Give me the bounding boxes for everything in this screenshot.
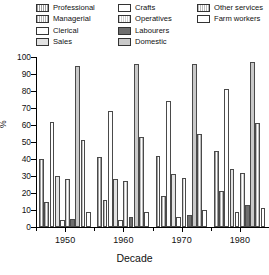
bar-1950-domestic <box>75 66 80 228</box>
bar-1960-clerical <box>108 111 113 227</box>
legend-swatch-icon <box>118 4 131 12</box>
y-tick-label: 30 <box>5 172 31 180</box>
bar-1950-professional <box>39 159 44 227</box>
bar-1980-managerial <box>219 191 224 227</box>
x-tick <box>240 227 241 232</box>
bar-1970-crafts <box>176 217 181 227</box>
bar-1960-sales <box>113 179 118 227</box>
bar-1970-domestic <box>192 64 197 227</box>
legend-label: Clerical <box>53 27 78 35</box>
bar-1960-farm-workers <box>144 212 149 227</box>
bar-1950-crafts <box>60 220 65 227</box>
legend-label: Domestic <box>135 38 167 46</box>
bar-1970-professional <box>156 156 161 227</box>
legend-item-professional: Professional <box>36 2 95 14</box>
bar-1980-sales <box>230 169 235 227</box>
legend-label: Sales <box>53 38 72 46</box>
bar-1980-farm-workers <box>261 208 266 227</box>
bar-1960-operatives <box>123 181 128 227</box>
x-tick <box>123 227 124 232</box>
bar-1980-domestic <box>250 62 255 227</box>
bar-1970-clerical <box>166 101 171 227</box>
legend-item-other-services: Other services <box>197 2 263 14</box>
y-tick-label: 50 <box>5 138 31 146</box>
legend-swatch-icon <box>118 38 131 46</box>
legend-swatch-icon <box>197 15 210 23</box>
bar-container <box>36 57 269 227</box>
bar-1980-professional <box>214 151 219 228</box>
y-tick-label: 0 <box>5 223 31 231</box>
y-tick-label: 40 <box>5 155 31 163</box>
legend-label: Operatives <box>135 15 172 23</box>
legend-item-clerical: Clerical <box>36 25 95 37</box>
y-tick-label: 80 <box>5 87 31 95</box>
legend-column-2: CraftsOperativesLabourersDomestic <box>118 2 172 48</box>
legend-column-3: Other servicesFarm workers <box>197 2 263 25</box>
legend-swatch-icon <box>36 27 49 35</box>
legend-label: Labourers <box>135 27 169 35</box>
bar-1950-other-services <box>81 140 86 227</box>
x-group-boundary-tick <box>36 227 37 231</box>
bar-1970-farm-workers <box>202 210 207 227</box>
x-group-boundary-tick <box>94 227 95 231</box>
x-tick-label: 1960 <box>103 235 143 245</box>
x-group-boundary-tick <box>153 227 154 231</box>
legend-swatch-icon <box>36 4 49 12</box>
y-axis-title: % <box>0 120 8 128</box>
legend-item-farm-workers: Farm workers <box>197 14 263 26</box>
y-tick-label: 70 <box>5 104 31 112</box>
y-tick-label: 90 <box>5 70 31 78</box>
bar-1980-clerical <box>224 89 229 227</box>
bar-1950-operatives <box>65 179 70 227</box>
x-tick <box>65 227 66 232</box>
legend-swatch-icon <box>118 15 131 23</box>
legend-item-crafts: Crafts <box>118 2 172 14</box>
bar-1950-farm-workers <box>86 212 91 227</box>
legend-label: Farm workers <box>214 15 260 23</box>
bar-chart-figure: ProfessionalManagerialClericalSales Craf… <box>0 0 269 275</box>
y-tick-label: 20 <box>5 189 31 197</box>
bar-1970-other-services <box>197 134 202 228</box>
x-axis-title: Decade <box>0 252 269 264</box>
legend-column-1: ProfessionalManagerialClericalSales <box>36 2 95 48</box>
bar-1980-labourers <box>245 205 250 227</box>
legend-swatch-icon <box>118 27 131 35</box>
bar-1970-labourers <box>187 215 192 227</box>
bar-1980-crafts <box>235 212 240 227</box>
x-tick-label: 1950 <box>45 235 85 245</box>
legend-item-domestic: Domestic <box>118 37 172 49</box>
bar-1960-professional <box>97 157 102 227</box>
bar-1980-operatives <box>240 173 245 227</box>
legend-item-operatives: Operatives <box>118 14 172 26</box>
bar-1960-domestic <box>134 64 139 227</box>
chart-legend: ProfessionalManagerialClericalSales Craf… <box>36 2 269 48</box>
legend-swatch-icon <box>197 4 210 12</box>
bar-1970-managerial <box>161 196 166 227</box>
x-tick-label: 1980 <box>220 235 260 245</box>
x-tick <box>182 227 183 232</box>
legend-label: Professional <box>53 4 95 12</box>
bar-1950-labourers <box>70 219 75 228</box>
bar-1960-crafts <box>118 220 123 227</box>
bar-1950-managerial <box>44 202 49 228</box>
bar-1970-sales <box>171 174 176 227</box>
y-tick-label: 100 <box>5 53 31 61</box>
x-group-boundary-tick <box>211 227 212 231</box>
bar-1980-other-services <box>255 123 260 227</box>
legend-item-sales: Sales <box>36 37 95 49</box>
bar-1960-managerial <box>103 200 108 227</box>
legend-swatch-icon <box>36 15 49 23</box>
legend-label: Crafts <box>135 4 155 12</box>
bar-1950-sales <box>55 176 60 227</box>
y-tick-label: 60 <box>5 121 31 129</box>
bar-1950-clerical <box>50 122 55 227</box>
bar-1960-labourers <box>129 217 134 227</box>
legend-label: Managerial <box>53 15 91 23</box>
legend-item-managerial: Managerial <box>36 14 95 26</box>
legend-swatch-icon <box>36 38 49 46</box>
x-tick-label: 1970 <box>162 235 202 245</box>
y-tick-label: 10 <box>5 206 31 214</box>
bar-1960-other-services <box>139 137 144 227</box>
legend-item-labourers: Labourers <box>118 25 172 37</box>
bar-1970-operatives <box>182 178 187 227</box>
